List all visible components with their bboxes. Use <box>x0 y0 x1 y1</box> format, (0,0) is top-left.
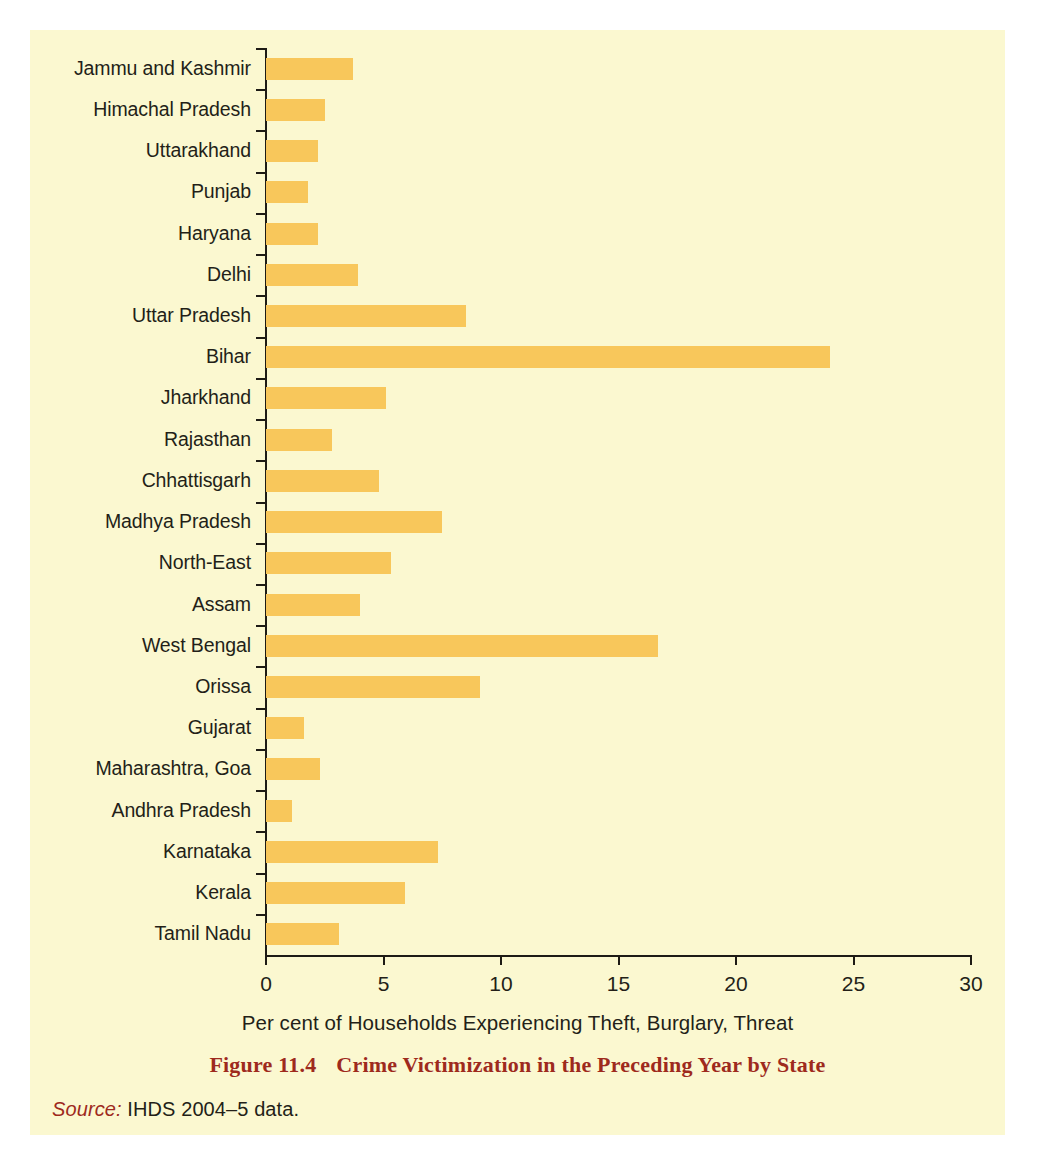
y-axis-tick <box>256 502 265 504</box>
category-label: Punjab <box>30 182 251 202</box>
category-label: Tamil Nadu <box>30 924 251 944</box>
bar <box>266 181 308 203</box>
category-label: North-East <box>30 553 251 573</box>
bar <box>266 140 318 162</box>
category-label: Assam <box>30 595 251 615</box>
category-label: Jammu and Kashmir <box>30 59 251 79</box>
x-axis-tick-label: 20 <box>724 973 747 994</box>
bar <box>266 635 658 657</box>
bar <box>266 99 325 121</box>
y-axis-tick <box>256 419 265 421</box>
category-label: Jharkhand <box>30 388 251 408</box>
category-label: Chhattisgarh <box>30 471 251 491</box>
source-text: IHDS 2004–5 data. <box>127 1098 299 1120</box>
category-label: Uttarakhand <box>30 141 251 161</box>
x-axis-tick <box>735 955 737 965</box>
category-label: Maharashtra, Goa <box>30 759 251 779</box>
x-axis-tick <box>265 955 267 965</box>
x-axis-tick-label: 30 <box>959 973 982 994</box>
source-label: Source: <box>52 1098 122 1120</box>
x-axis-tick <box>970 955 972 965</box>
bar <box>266 264 358 286</box>
bar <box>266 717 304 739</box>
bar <box>266 758 320 780</box>
y-axis-tick <box>256 708 265 710</box>
category-label: Bihar <box>30 347 251 367</box>
y-axis-tick <box>256 460 265 462</box>
category-label: Karnataka <box>30 842 251 862</box>
bar <box>266 923 339 945</box>
x-axis-title: Per cent of Households Experiencing Thef… <box>30 1011 1005 1035</box>
bar <box>266 346 830 368</box>
bar <box>266 882 405 904</box>
bar <box>266 800 292 822</box>
category-label: Orissa <box>30 677 251 697</box>
y-axis-tick <box>256 48 265 50</box>
category-label: Gujarat <box>30 718 251 738</box>
bar <box>266 58 353 80</box>
bar <box>266 841 438 863</box>
category-label: Andhra Pradesh <box>30 801 251 821</box>
bar <box>266 429 332 451</box>
y-axis-tick <box>256 89 265 91</box>
y-axis-tick <box>256 873 265 875</box>
category-label: Uttar Pradesh <box>30 306 251 326</box>
bar <box>266 511 442 533</box>
bar <box>266 594 360 616</box>
x-axis-tick-label: 25 <box>842 973 865 994</box>
x-axis-tick-label: 10 <box>489 973 512 994</box>
y-axis-tick <box>256 378 265 380</box>
y-axis-tick <box>256 295 265 297</box>
bar <box>266 387 386 409</box>
y-axis-tick <box>256 914 265 916</box>
bar <box>266 552 391 574</box>
y-axis-tick <box>256 172 265 174</box>
x-axis-tick <box>383 955 385 965</box>
y-axis-tick <box>256 584 265 586</box>
x-axis-tick-label: 0 <box>260 973 272 994</box>
y-axis-tick <box>256 625 265 627</box>
bar-chart: Jammu and KashmirHimachal PradeshUttarak… <box>30 30 1005 960</box>
figure-caption: Figure 11.4Crime Victimization in the Pr… <box>30 1052 1005 1078</box>
x-axis-tick <box>853 955 855 965</box>
bar <box>266 470 379 492</box>
source-note: Source: IHDS 2004–5 data. <box>52 1098 299 1121</box>
x-axis-tick <box>500 955 502 965</box>
x-axis-tick <box>618 955 620 965</box>
y-axis-tick <box>256 213 265 215</box>
y-axis-tick <box>256 666 265 668</box>
figure-number: Figure 11.4 <box>209 1052 316 1077</box>
y-axis-tick <box>256 130 265 132</box>
y-axis-tick <box>256 749 265 751</box>
y-axis-tick <box>256 254 265 256</box>
category-label: Himachal Pradesh <box>30 100 251 120</box>
category-label: West Bengal <box>30 636 251 656</box>
category-label: Rajasthan <box>30 430 251 450</box>
category-label: Kerala <box>30 883 251 903</box>
category-label: Delhi <box>30 265 251 285</box>
y-axis-tick <box>256 790 265 792</box>
figure-caption-text: Crime Victimization in the Preceding Yea… <box>336 1052 825 1077</box>
bar <box>266 305 466 327</box>
x-axis-tick-label: 15 <box>607 973 630 994</box>
y-axis-tick <box>256 543 265 545</box>
category-label: Haryana <box>30 224 251 244</box>
figure-panel: Jammu and KashmirHimachal PradeshUttarak… <box>30 30 1005 1135</box>
y-axis-tick <box>256 831 265 833</box>
category-label: Madhya Pradesh <box>30 512 251 532</box>
bar <box>266 223 318 245</box>
bar <box>266 676 480 698</box>
y-axis-tick <box>256 337 265 339</box>
x-axis-tick-label: 5 <box>378 973 390 994</box>
